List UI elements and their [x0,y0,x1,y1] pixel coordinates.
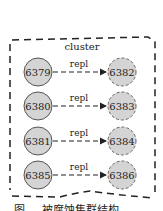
repl-label: repl [70,93,88,103]
pair-row: 6379 repl 6382 [24,58,136,86]
replica-label: 6383 [109,101,134,112]
cluster-label: cluster [64,41,99,52]
figure-caption: 图 ... 被腐蚀集群结构 [14,203,119,211]
pair-row: 6381 repl 6384 [24,127,136,155]
repl-label: repl [70,162,88,172]
repl-label: repl [70,128,88,138]
repl-label: repl [70,59,88,69]
pair-row: 6380 repl 6383 [24,92,136,120]
master-label: 6379 [25,67,50,78]
replica-label: 6386 [109,170,134,181]
master-label: 6380 [25,101,50,112]
master-label: 6381 [25,136,50,147]
replica-label: 6384 [109,136,134,147]
master-label: 6385 [25,170,50,181]
cluster-diagram: cluster 6379 repl 6382 6380 repl 6383 63… [0,0,163,211]
pair-row: 6385 repl 6386 [24,161,136,189]
replica-label: 6382 [109,67,134,78]
